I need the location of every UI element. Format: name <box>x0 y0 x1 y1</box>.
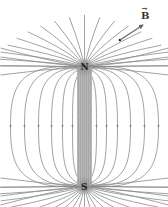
bar-magnet-field-diagram: N S B → <box>0 0 168 207</box>
field-lines-canvas: N S B → <box>0 0 168 207</box>
field-vector: B → <box>119 4 150 41</box>
bar-magnet <box>77 67 92 186</box>
vector-accent-icon: → <box>142 4 148 13</box>
north-pole-label: N <box>81 62 89 72</box>
south-pole-label: S <box>81 182 88 192</box>
